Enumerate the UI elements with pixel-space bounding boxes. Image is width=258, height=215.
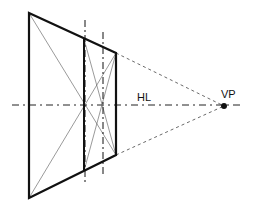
horizon-line-label: HL xyxy=(137,91,151,103)
perspective-diagram: HL VP xyxy=(0,0,258,215)
diagonal-line xyxy=(84,53,116,171)
bottom-convergence-line xyxy=(116,106,224,155)
diagram-drawing xyxy=(0,0,258,215)
vanishing-point-dot xyxy=(221,103,227,109)
vanishing-point-label: VP xyxy=(221,88,236,100)
diagonal-line xyxy=(84,39,116,155)
top-convergence-line xyxy=(116,53,224,106)
